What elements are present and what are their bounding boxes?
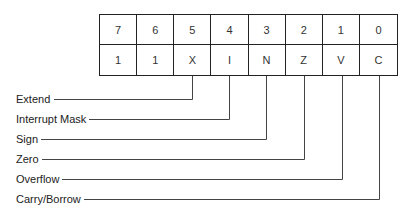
flag-label-extend: Extend — [16, 93, 53, 105]
flag-label-carry-borrow: Carry/Borrow — [16, 193, 84, 205]
connector-sign — [40, 76, 267, 140]
connector-lines — [0, 0, 417, 217]
flag-label-zero: Zero — [16, 153, 42, 165]
flag-label-sign: Sign — [16, 133, 41, 145]
connector-overflow — [62, 76, 343, 180]
connector-carry-borrow — [82, 76, 380, 200]
flag-label-interrupt-mask: Interrupt Mask — [16, 113, 89, 125]
flag-label-overflow: Overflow — [16, 173, 62, 185]
connector-interrupt-mask — [88, 76, 230, 120]
connector-extend — [54, 76, 193, 100]
